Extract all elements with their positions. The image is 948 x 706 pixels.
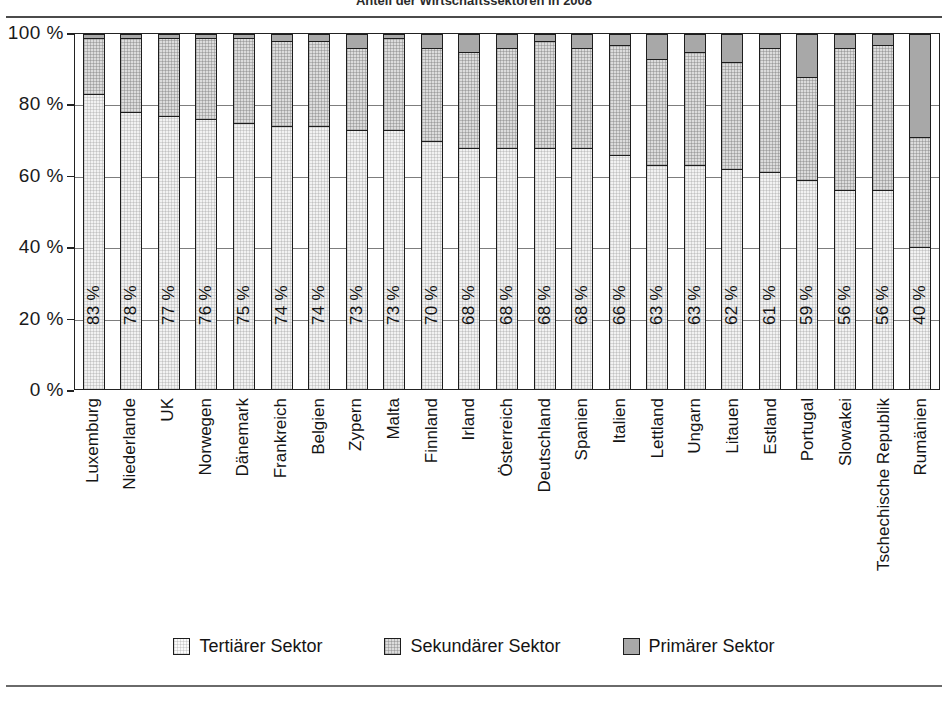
bar-value-label: 62 % xyxy=(722,285,742,325)
stacked-bar[interactable]: 40 % xyxy=(909,34,931,389)
stacked-bar[interactable]: 56 % xyxy=(834,34,856,389)
bar-slot: 75 % xyxy=(225,34,263,389)
chart-title: Anteil der Wirtschaftssektoren in 2008 xyxy=(0,0,948,6)
y-axis-tick-label: 0 % xyxy=(30,379,64,401)
stacked-bar[interactable]: 63 % xyxy=(646,34,668,389)
x-label-slot: Finnland xyxy=(413,392,451,562)
primary-segment xyxy=(459,34,479,52)
tertiary-segment xyxy=(234,123,254,389)
tertiary-segment xyxy=(422,141,442,390)
primary-segment xyxy=(196,34,216,38)
bar-value-label: 83 % xyxy=(84,285,104,325)
stacked-bar[interactable]: 74 % xyxy=(271,34,293,389)
bar-slot: 63 % xyxy=(676,34,714,389)
bar-slot: 68 % xyxy=(563,34,601,389)
x-label-slot: Rumänien xyxy=(902,392,940,562)
primary-segment xyxy=(722,34,742,62)
chart-legend: Tertiärer SektorSekundärer SektorPrimäre… xyxy=(0,636,948,657)
x-axis-tick-label: Niederlande xyxy=(120,398,140,490)
y-axis-tick-mark xyxy=(67,176,74,178)
secondary-segment xyxy=(835,48,855,190)
secondary-segment xyxy=(459,52,479,148)
stacked-bar[interactable]: 66 % xyxy=(609,34,631,389)
tertiary-segment xyxy=(535,148,555,389)
tertiary-segment xyxy=(685,165,705,389)
stacked-bar[interactable]: 68 % xyxy=(496,34,518,389)
secondary-segment xyxy=(610,45,630,155)
stacked-bar[interactable]: 73 % xyxy=(346,34,368,389)
secondary-segment xyxy=(647,59,667,166)
y-axis-tick-label: 20 % xyxy=(19,308,64,330)
x-label-slot: Ungarn xyxy=(677,392,715,562)
bar-value-label: 56 % xyxy=(873,285,893,325)
legend-item[interactable]: Primärer Sektor xyxy=(623,636,775,657)
stacked-bar[interactable]: 74 % xyxy=(308,34,330,389)
bar-slot: 73 % xyxy=(376,34,414,389)
stacked-bar[interactable]: 78 % xyxy=(120,34,142,389)
stacked-bar[interactable]: 68 % xyxy=(571,34,593,389)
bar-slot: 74 % xyxy=(263,34,301,389)
secondary-segment xyxy=(159,38,179,116)
secondary-segment xyxy=(422,48,442,140)
primary-segment xyxy=(159,34,179,38)
legend-label: Tertiärer Sektor xyxy=(199,636,322,657)
plot-area: 83 %78 %77 %76 %75 %74 %74 %73 %73 %70 %… xyxy=(74,33,940,390)
stacked-bar[interactable]: 68 % xyxy=(534,34,556,389)
bar-slot: 62 % xyxy=(714,34,752,389)
x-axis-tick-label: Finnland xyxy=(422,398,442,463)
x-axis-tick-label: Litauen xyxy=(723,398,743,454)
primary-segment xyxy=(572,34,592,48)
x-axis-tick-label: Zypern xyxy=(346,398,366,451)
tertiary-segment xyxy=(121,112,141,389)
bar-slot: 40 % xyxy=(901,34,939,389)
x-label-slot: Norwegen xyxy=(187,392,225,562)
x-axis-labels: LuxemburgNiederlandeUKNorwegenDänemarkFr… xyxy=(74,392,940,562)
legend-item[interactable]: Tertiärer Sektor xyxy=(173,636,322,657)
legend-item[interactable]: Sekundärer Sektor xyxy=(384,636,560,657)
stacked-bar[interactable]: 76 % xyxy=(195,34,217,389)
stacked-bar[interactable]: 77 % xyxy=(158,34,180,389)
chart-figure: Anteil der Wirtschaftssektoren in 2008 8… xyxy=(0,0,948,706)
stacked-bar[interactable]: 83 % xyxy=(83,34,105,389)
tertiary-segment xyxy=(196,119,216,389)
x-axis-tick-label: Spanien xyxy=(572,398,592,460)
stacked-bar[interactable]: 68 % xyxy=(458,34,480,389)
bar-slot: 77 % xyxy=(150,34,188,389)
stacked-bar[interactable]: 59 % xyxy=(796,34,818,389)
stacked-bar[interactable]: 56 % xyxy=(872,34,894,389)
x-label-slot: Malta xyxy=(375,392,413,562)
secondary-segment xyxy=(84,38,104,95)
stacked-bar[interactable]: 62 % xyxy=(721,34,743,389)
bar-slot: 56 % xyxy=(826,34,864,389)
bar-value-label: 66 % xyxy=(610,285,630,325)
bar-value-label: 76 % xyxy=(196,285,216,325)
x-label-slot: Belgien xyxy=(300,392,338,562)
bar-slot: 61 % xyxy=(751,34,789,389)
top-divider-rule xyxy=(6,16,942,18)
stacked-bar[interactable]: 75 % xyxy=(233,34,255,389)
bar-value-label: 63 % xyxy=(647,285,667,325)
tertiary-segment xyxy=(272,126,292,389)
secondary-segment xyxy=(760,48,780,172)
primary-segment xyxy=(873,34,893,45)
secondary-segment xyxy=(797,77,817,180)
primary-segment xyxy=(384,34,404,38)
tertiary-segment xyxy=(459,148,479,389)
tertiary-segment xyxy=(309,126,329,389)
tertiary-segment xyxy=(497,148,517,389)
stacked-bar[interactable]: 61 % xyxy=(759,34,781,389)
bar-value-label: 68 % xyxy=(535,285,555,325)
y-axis-tick-mark xyxy=(67,33,74,35)
primary-segment xyxy=(497,34,517,48)
y-axis-tick-mark xyxy=(67,390,74,392)
x-axis-tick-label: Ungarn xyxy=(685,398,705,454)
secondary-segment xyxy=(910,137,930,247)
bar-slot: 56 % xyxy=(864,34,902,389)
x-axis-tick-label: Irland xyxy=(459,398,479,441)
bar-value-label: 68 % xyxy=(497,285,517,325)
tertiary-segment xyxy=(610,155,630,389)
secondary-segment xyxy=(572,48,592,147)
stacked-bar[interactable]: 73 % xyxy=(383,34,405,389)
stacked-bar[interactable]: 63 % xyxy=(684,34,706,389)
stacked-bar[interactable]: 70 % xyxy=(421,34,443,389)
